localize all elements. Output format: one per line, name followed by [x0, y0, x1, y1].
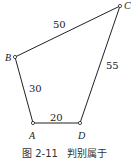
edge-label-bc: 50 [53, 19, 66, 30]
figure-caption: 图 2-11 判别属于 [22, 145, 132, 160]
point-label-a: A [28, 130, 36, 141]
point-label-c: C [124, 0, 131, 11]
joint-c [118, 4, 121, 7]
edge-label-cd: 55 [106, 60, 119, 71]
linkage-polygon [15, 6, 120, 123]
joint-d [78, 121, 81, 124]
point-label-b: B [5, 52, 11, 63]
edge-label-ad: 20 [50, 112, 63, 123]
joint-a [31, 121, 34, 124]
joint-b [13, 55, 16, 58]
edge-label-ab: 30 [29, 83, 42, 94]
four-bar-linkage-diagram: B C A D 50 55 30 20 [0, 0, 132, 165]
point-label-d: D [77, 130, 86, 141]
